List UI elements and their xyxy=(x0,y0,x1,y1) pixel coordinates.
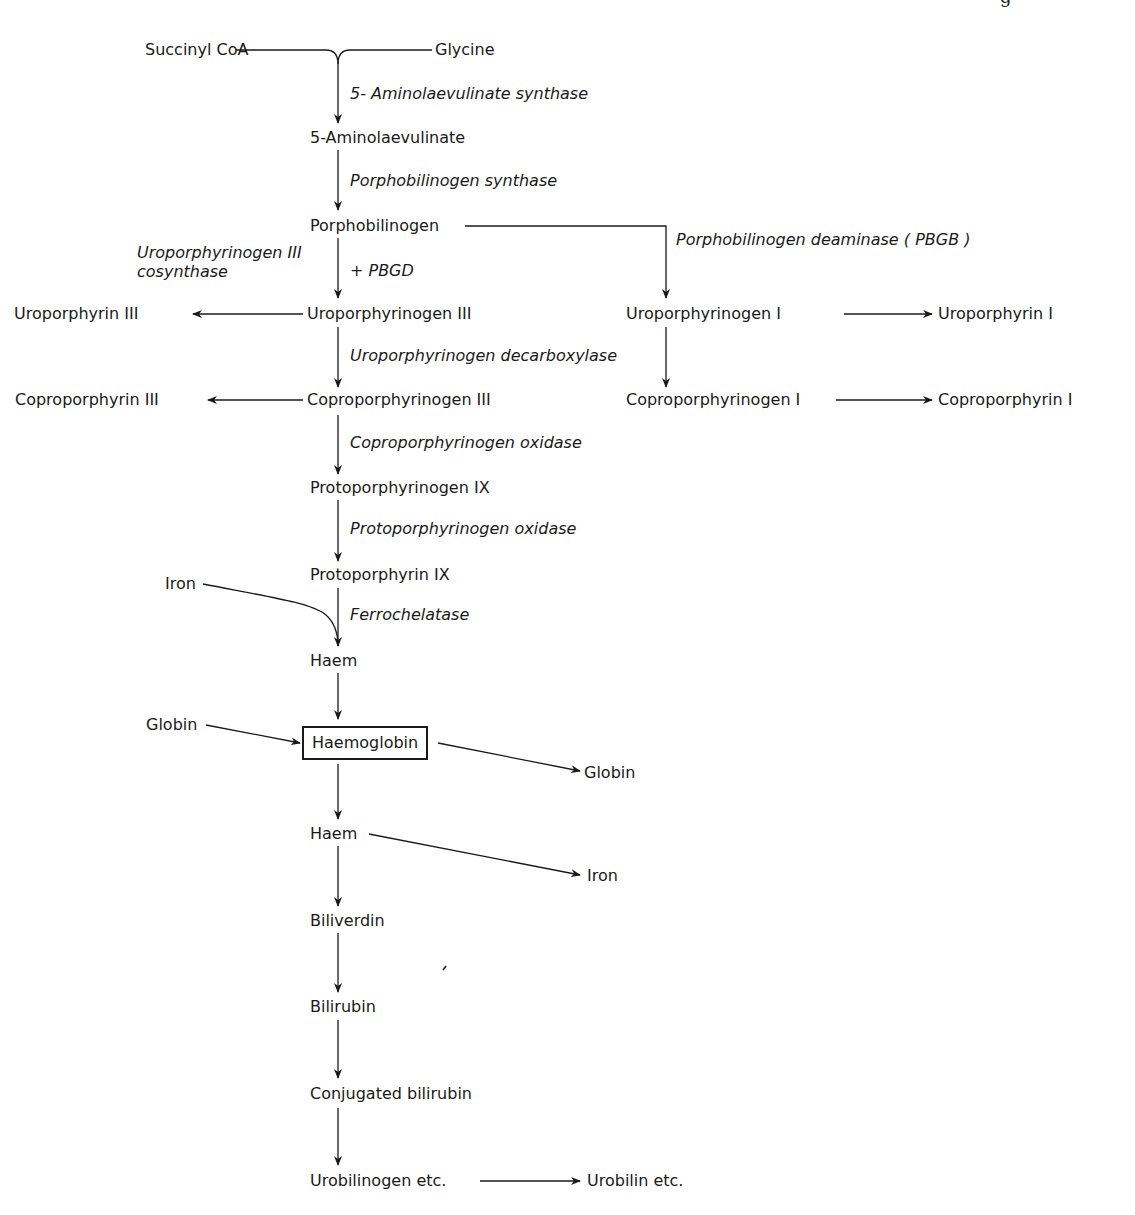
arrow-to-uroporphyrinogen-i xyxy=(465,226,666,298)
enzyme-copro-oxidase: Coproporphyrinogen oxidase xyxy=(350,433,582,453)
enzyme-uro-decarboxylase: Uroporphyrinogen decarboxylase xyxy=(350,346,617,366)
node-coproporphyrin-i: Coproporphyrin I xyxy=(938,390,1072,410)
enzyme-plus-pbgd: + PBGD xyxy=(350,261,414,281)
node-protoporphyrinogen-ix: Protoporphyrinogen IX xyxy=(310,478,490,498)
node-urobilinogen: Urobilinogen etc. xyxy=(310,1171,446,1191)
node-globin-in: Globin xyxy=(146,715,197,735)
enzyme-pbg-synthase: Porphobilinogen synthase xyxy=(350,171,557,191)
node-urobilin: Urobilin etc. xyxy=(587,1171,683,1191)
glycine-connector xyxy=(338,50,432,64)
node-biliverdin: Biliverdin xyxy=(310,911,385,931)
enzyme-uro-iii-cosynthase-line1: Uroporphyrinogen III xyxy=(137,243,302,263)
node-haemoglobin: Haemoglobin xyxy=(302,726,428,760)
node-bilirubin: Bilirubin xyxy=(310,997,376,1017)
node-coproporphyrinogen-iii: Coproporphyrinogen III xyxy=(307,390,491,410)
stray-mark xyxy=(443,966,446,970)
node-uroporphyrin-iii: Uroporphyrin III xyxy=(14,304,138,324)
iron-incoming-connector xyxy=(203,584,338,646)
node-uroporphyrinogen-i: Uroporphyrinogen I xyxy=(626,304,781,324)
node-conjugated-bilirubin: Conjugated bilirubin xyxy=(310,1084,472,1104)
node-glycine: Glycine xyxy=(435,40,495,60)
enzyme-ala-synthase: 5- Aminolaevulinate synthase xyxy=(350,84,588,104)
node-succinyl-coa: Succinyl CoA xyxy=(145,40,248,60)
haem-metabolism-pathway-diagram: g Succinyl CoA Glycine 5-Aminolaevulinat… xyxy=(0,0,1135,1215)
node-porphobilinogen: Porphobilinogen xyxy=(310,216,439,236)
node-coproporphyrin-iii: Coproporphyrin III xyxy=(15,390,159,410)
node-protoporphyrin-ix: Protoporphyrin IX xyxy=(310,565,450,585)
node-haem: Haem xyxy=(310,651,357,671)
node-iron-in: Iron xyxy=(165,574,196,594)
arrow-to-iron-out xyxy=(369,834,580,875)
node-haem-2: Haem xyxy=(310,824,357,844)
node-uroporphyrin-i: Uroporphyrin I xyxy=(938,304,1053,324)
enzyme-ferrochelatase: Ferrochelatase xyxy=(350,605,469,625)
node-aminolaevulinate: 5-Aminolaevulinate xyxy=(310,128,465,148)
node-iron-out: Iron xyxy=(587,866,618,886)
node-globin-out: Globin xyxy=(584,763,635,783)
pathway-arrows xyxy=(0,0,1135,1215)
page-header-fragment: g xyxy=(1000,0,1012,7)
arrow-globin-in xyxy=(206,725,300,743)
enzyme-uro-iii-cosynthase-line2: cosynthase xyxy=(137,262,228,282)
enzyme-pbg-deaminase: Porphobilinogen deaminase ( PBGB ) xyxy=(676,230,970,250)
arrow-globin-out xyxy=(438,743,580,771)
node-uroporphyrinogen-iii: Uroporphyrinogen III xyxy=(307,304,471,324)
enzyme-proto-oxidase: Protoporphyrinogen oxidase xyxy=(350,519,576,539)
node-coproporphyrinogen-i: Coproporphyrinogen I xyxy=(626,390,800,410)
succinyl-coa-connector xyxy=(236,50,338,64)
